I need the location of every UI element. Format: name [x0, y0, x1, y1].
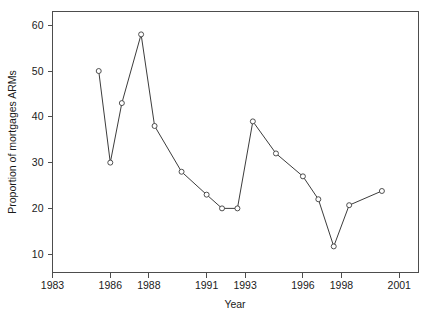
data-point-marker [300, 174, 305, 179]
data-point-marker [179, 169, 184, 174]
data-point-marker [235, 206, 240, 211]
data-point-marker [108, 160, 113, 165]
x-tick-label: 1991 [195, 279, 219, 291]
x-tick-label: 1993 [233, 279, 257, 291]
series-line-arms [99, 34, 382, 246]
x-axis-ticks: 19831986198819911993199619982001 [41, 273, 411, 292]
x-tick-label: 1988 [137, 279, 161, 291]
data-point-marker [152, 123, 157, 128]
series-markers [96, 32, 384, 249]
y-axis-title: Proportion of mortgages ARMs [6, 70, 18, 214]
data-series-group [96, 32, 384, 249]
data-point-marker [379, 188, 384, 193]
data-point-marker [220, 206, 225, 211]
x-tick-label: 1983 [41, 279, 65, 291]
x-tick-label: 1986 [99, 279, 123, 291]
data-point-marker [204, 192, 209, 197]
data-point-marker [119, 101, 124, 106]
y-tick-label: 60 [32, 19, 44, 31]
y-tick-label: 50 [32, 65, 44, 77]
data-point-marker [331, 244, 336, 249]
y-tick-label: 30 [32, 156, 44, 168]
data-point-marker [96, 69, 101, 74]
x-tick-label: 2001 [388, 279, 412, 291]
y-tick-label: 20 [32, 202, 44, 214]
x-tick-label: 1996 [291, 279, 315, 291]
data-point-marker [316, 197, 321, 202]
x-tick-label: 1998 [330, 279, 354, 291]
y-tick-label: 40 [32, 110, 44, 122]
y-axis-ticks: 102030405060 [32, 19, 53, 260]
y-tick-label: 10 [32, 248, 44, 260]
arms-proportion-line-chart: 102030405060 198319861988199119931996199… [0, 0, 431, 321]
chart-container: 102030405060 198319861988199119931996199… [0, 0, 431, 321]
data-point-marker [347, 203, 352, 208]
data-point-marker [139, 32, 144, 37]
data-point-marker [273, 151, 278, 156]
data-point-marker [250, 119, 255, 124]
x-axis-title: Year [224, 298, 246, 310]
